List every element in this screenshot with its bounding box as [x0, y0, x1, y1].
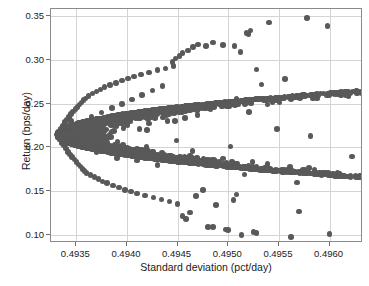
scatter-point — [88, 146, 94, 152]
scatter-point — [248, 97, 254, 103]
x-axis-tick — [75, 242, 76, 246]
scatter-point — [301, 92, 307, 98]
scatter-point — [160, 83, 166, 89]
scatter-point — [308, 133, 314, 139]
scatter-point — [119, 101, 125, 107]
scatter-point — [111, 113, 117, 119]
scatter-point — [308, 171, 314, 177]
x-axis-tick-label: 0.4955 — [263, 248, 292, 259]
scatter-point — [232, 43, 238, 49]
scatter-point — [311, 94, 317, 100]
scatter-point — [139, 92, 145, 98]
gridline-horizontal — [51, 16, 361, 17]
scatter-point — [266, 20, 272, 26]
scatter-point — [214, 100, 220, 106]
scatter-point — [354, 90, 360, 96]
scatter-point — [129, 97, 135, 103]
scatter-point — [210, 224, 216, 230]
scatter-point — [223, 164, 229, 170]
scatter-point — [155, 162, 161, 168]
gridline-vertical — [330, 9, 331, 241]
x-axis-tick-label: 0.4940 — [111, 248, 140, 259]
scatter-point — [241, 164, 247, 170]
scatter-point — [345, 89, 351, 95]
y-axis-tick — [46, 15, 50, 16]
scatter-point — [109, 105, 115, 111]
scatter-point — [244, 30, 250, 36]
scatter-point — [254, 67, 260, 73]
scatter-point — [145, 155, 151, 161]
scatter-point — [203, 43, 209, 49]
scatter-point — [210, 40, 216, 46]
scatter-point — [228, 144, 234, 150]
y-axis-tick-label: 0.35 — [26, 10, 45, 21]
gridline-vertical — [228, 9, 229, 241]
scatter-point — [175, 201, 181, 207]
scatter-point — [120, 112, 126, 118]
scatter-point — [119, 78, 125, 84]
scatter-point — [134, 191, 140, 197]
scatter-point — [72, 140, 78, 146]
scatter-point — [195, 42, 201, 48]
scatter-point — [125, 118, 131, 124]
scatter-point — [165, 106, 171, 112]
x-axis-tick-label: 0.4935 — [61, 248, 90, 259]
scatter-point — [288, 234, 294, 240]
scatter-point — [77, 142, 83, 148]
y-axis-tick — [46, 234, 50, 235]
scatter-point — [151, 195, 157, 201]
scatter-point — [164, 157, 170, 163]
scatter-point — [326, 172, 332, 178]
scatter-point — [182, 115, 188, 121]
scatter-point — [89, 131, 95, 137]
scatter-point — [163, 66, 169, 72]
scatter-point — [199, 103, 205, 109]
scatter-point — [325, 23, 331, 29]
scatter-point — [255, 96, 261, 102]
scatter-point — [150, 88, 156, 94]
x-axis-tick-label: 0.4950 — [213, 248, 242, 259]
scatter-point — [137, 126, 143, 132]
scatter-point — [144, 127, 150, 133]
scatter-point — [165, 118, 171, 124]
scatter-point — [110, 183, 116, 189]
scatter-point — [80, 121, 86, 127]
scatter-point — [290, 168, 296, 174]
x-axis-tick-label: 0.4945 — [162, 248, 191, 259]
scatter-point — [297, 170, 303, 176]
plot-area — [50, 8, 362, 242]
scatter-point — [159, 197, 165, 203]
gridline-horizontal — [51, 235, 361, 236]
scatter-point — [281, 95, 287, 101]
gridline-horizontal — [51, 191, 361, 192]
scatter-point — [259, 82, 265, 88]
scatter-point — [111, 122, 117, 128]
scatter-point — [200, 187, 206, 193]
y-axis-title: Return (bps/day) — [20, 61, 32, 201]
scatter-point — [131, 74, 137, 80]
scatter-point — [239, 232, 245, 238]
x-axis-tick-label: 0.4960 — [314, 248, 343, 259]
x-axis-tick — [227, 242, 228, 246]
scatter-point — [220, 42, 226, 48]
scatter-point — [346, 174, 352, 180]
gridline-vertical — [279, 9, 280, 241]
y-axis-tick — [46, 59, 50, 60]
scatter-point — [296, 209, 302, 215]
scatter-point — [304, 15, 310, 21]
scatter-point — [225, 103, 231, 109]
scatter-point — [119, 150, 125, 156]
scatter-point — [349, 154, 355, 160]
scatter-point — [109, 129, 115, 135]
scatter-point — [238, 49, 244, 55]
scatter-point — [264, 167, 270, 173]
scatter-point — [122, 187, 128, 193]
scatter-point — [131, 148, 137, 154]
scatter-point — [187, 210, 193, 216]
scatter-point — [167, 199, 173, 205]
scatter-point — [74, 132, 80, 138]
scatter-point — [242, 172, 248, 178]
x-axis-tick — [329, 242, 330, 246]
scatter-point — [125, 151, 131, 157]
x-axis-tick — [177, 242, 178, 246]
